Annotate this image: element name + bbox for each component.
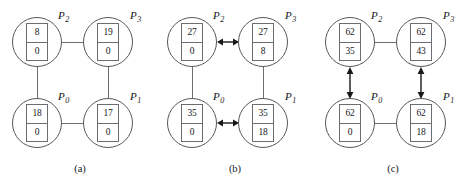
label-subscript: 3 bbox=[450, 15, 454, 24]
register-box-p3-a: 19 0 bbox=[97, 23, 119, 61]
node-label-p3-c: P3 bbox=[443, 10, 454, 21]
register-bottom-value: 18 bbox=[411, 124, 431, 142]
register-top-value: 62 bbox=[411, 105, 431, 124]
register-box-p1-c: 62 18 bbox=[410, 104, 432, 142]
label-subscript: 3 bbox=[137, 15, 141, 24]
node-label-p0-b: P0 bbox=[213, 91, 224, 102]
label-letter: P bbox=[213, 9, 220, 21]
double-arrow-right-c bbox=[413, 67, 429, 99]
register-bottom-value: 35 bbox=[340, 43, 360, 61]
node-label-p2-c: P2 bbox=[371, 10, 382, 21]
register-box-p2-c: 62 35 bbox=[339, 23, 361, 61]
node-label-p1-c: P1 bbox=[443, 91, 454, 102]
double-arrow-left-c bbox=[342, 67, 358, 99]
node-p1-c[interactable]: 62 18 bbox=[396, 98, 446, 148]
register-bottom-value: 0 bbox=[27, 124, 47, 142]
register-bottom-value: 0 bbox=[340, 124, 360, 142]
register-box-p0-a: 18 0 bbox=[26, 104, 48, 142]
node-p3-c[interactable]: 62 43 bbox=[396, 17, 446, 67]
label-letter: P bbox=[130, 90, 137, 102]
node-label-p0-a: P0 bbox=[58, 91, 69, 102]
edge-left-a bbox=[37, 67, 38, 98]
edge-right-b bbox=[263, 67, 264, 98]
double-arrow-bottom-b bbox=[217, 115, 239, 131]
register-box-p1-a: 17 0 bbox=[97, 104, 119, 142]
panel-caption-a: (a) bbox=[0, 163, 160, 174]
register-box-p0-c: 62 0 bbox=[339, 104, 361, 142]
edge-bottom-c bbox=[375, 123, 396, 124]
edge-right-a bbox=[108, 67, 109, 98]
node-p3-b[interactable]: 27 8 bbox=[238, 17, 288, 67]
register-top-value: 62 bbox=[340, 24, 360, 43]
register-box-p0-b: 35 0 bbox=[181, 104, 203, 142]
edge-bottom-a bbox=[62, 123, 83, 124]
node-p2-a[interactable]: 8 0 bbox=[12, 17, 62, 67]
label-letter: P bbox=[443, 90, 450, 102]
panel-b: 27 0 27 8 35 0 35 18 P2 P3 P0 P1 (b) bbox=[155, 0, 315, 187]
register-top-value: 17 bbox=[98, 105, 118, 124]
panel-caption-c: (c) bbox=[313, 163, 469, 174]
label-subscript: 2 bbox=[378, 15, 382, 24]
label-subscript: 0 bbox=[220, 96, 224, 105]
node-label-p1-a: P1 bbox=[130, 91, 141, 102]
register-top-value: 27 bbox=[182, 24, 202, 43]
register-box-p2-a: 8 0 bbox=[26, 23, 48, 61]
node-p0-b[interactable]: 35 0 bbox=[167, 98, 217, 148]
double-arrow-top-b bbox=[217, 34, 239, 50]
edge-top-c bbox=[375, 42, 396, 43]
panel-caption-b: (b) bbox=[155, 163, 315, 174]
node-label-p3-b: P3 bbox=[285, 10, 296, 21]
panel-a: 8 0 19 0 18 0 17 0 P2 P3 P0 P1 (a) bbox=[0, 0, 160, 187]
label-letter: P bbox=[371, 9, 378, 21]
node-p1-a[interactable]: 17 0 bbox=[83, 98, 133, 148]
label-subscript: 1 bbox=[292, 96, 296, 105]
register-bottom-value: 8 bbox=[253, 43, 273, 61]
label-subscript: 0 bbox=[65, 96, 69, 105]
register-bottom-value: 43 bbox=[411, 43, 431, 61]
label-subscript: 1 bbox=[450, 96, 454, 105]
register-top-value: 27 bbox=[253, 24, 273, 43]
panel-c: 62 35 62 43 62 0 62 18 P2 P3 P0 P1 (c) bbox=[313, 0, 469, 187]
node-label-p0-c: P0 bbox=[371, 91, 382, 102]
label-letter: P bbox=[130, 9, 137, 21]
register-top-value: 19 bbox=[98, 24, 118, 43]
node-p0-a[interactable]: 18 0 bbox=[12, 98, 62, 148]
label-subscript: 1 bbox=[137, 96, 141, 105]
edge-left-b bbox=[192, 67, 193, 98]
label-letter: P bbox=[213, 90, 220, 102]
register-top-value: 62 bbox=[411, 24, 431, 43]
register-top-value: 35 bbox=[182, 105, 202, 124]
node-p2-c[interactable]: 62 35 bbox=[325, 17, 375, 67]
register-bottom-value: 18 bbox=[253, 124, 273, 142]
label-letter: P bbox=[285, 90, 292, 102]
register-box-p3-b: 27 8 bbox=[252, 23, 274, 61]
register-bottom-value: 0 bbox=[182, 43, 202, 61]
register-top-value: 35 bbox=[253, 105, 273, 124]
register-bottom-value: 0 bbox=[27, 43, 47, 61]
register-box-p2-b: 27 0 bbox=[181, 23, 203, 61]
register-box-p1-b: 35 18 bbox=[252, 104, 274, 142]
node-p2-b[interactable]: 27 0 bbox=[167, 17, 217, 67]
label-letter: P bbox=[58, 90, 65, 102]
label-subscript: 3 bbox=[292, 15, 296, 24]
register-bottom-value: 0 bbox=[182, 124, 202, 142]
node-p0-c[interactable]: 62 0 bbox=[325, 98, 375, 148]
label-letter: P bbox=[58, 9, 65, 21]
label-subscript: 0 bbox=[378, 96, 382, 105]
node-p1-b[interactable]: 35 18 bbox=[238, 98, 288, 148]
label-letter: P bbox=[285, 9, 292, 21]
node-label-p2-b: P2 bbox=[213, 10, 224, 21]
label-letter: P bbox=[371, 90, 378, 102]
label-letter: P bbox=[443, 9, 450, 21]
label-subscript: 2 bbox=[220, 15, 224, 24]
node-label-p3-a: P3 bbox=[130, 10, 141, 21]
register-box-p3-c: 62 43 bbox=[410, 23, 432, 61]
register-top-value: 8 bbox=[27, 24, 47, 43]
edge-top-a bbox=[62, 42, 83, 43]
node-p3-a[interactable]: 19 0 bbox=[83, 17, 133, 67]
node-label-p2-a: P2 bbox=[58, 10, 69, 21]
register-bottom-value: 0 bbox=[98, 124, 118, 142]
label-subscript: 2 bbox=[65, 15, 69, 24]
register-bottom-value: 0 bbox=[98, 43, 118, 61]
register-top-value: 62 bbox=[340, 105, 360, 124]
